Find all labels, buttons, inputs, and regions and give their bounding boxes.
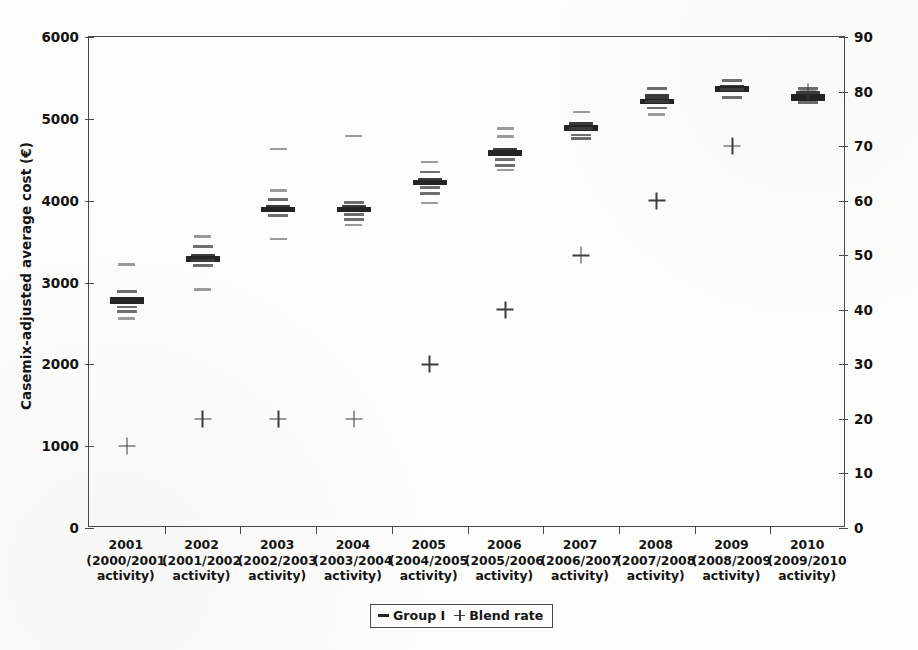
y-axis-title-left: Casemix-adjusted average cost (€) [18, 150, 34, 410]
y-tick-left [85, 364, 94, 365]
y-tick-right [839, 146, 848, 147]
y-tick-label-right: 30 [854, 356, 873, 372]
y-tick-label-right: 70 [854, 138, 873, 154]
group-i-dash-marker [345, 135, 362, 138]
y-tick-left [85, 528, 94, 529]
x-tick [770, 526, 771, 534]
blend-rate-plus-marker [118, 438, 135, 455]
group-i-dash-marker [720, 88, 744, 91]
x-tick [695, 526, 696, 534]
y-tick-label-right: 20 [854, 411, 873, 427]
blend-rate-plus-marker [800, 83, 817, 100]
x-tick [543, 526, 544, 534]
group-i-dash-marker [110, 299, 144, 304]
group-i-dash-marker [569, 127, 593, 130]
group-i-dash-marker [497, 127, 514, 130]
legend-label-group-i: Group I [393, 608, 445, 623]
group-i-dash-marker [571, 137, 591, 140]
y-tick-label-left: 6000 [41, 29, 79, 45]
group-i-dash-marker [798, 101, 818, 104]
group-i-dash-marker [497, 169, 514, 172]
legend-label-blend-rate: Blend rate [469, 608, 543, 623]
y-tick-right [839, 255, 848, 256]
y-tick-right [839, 528, 848, 529]
group-i-dash-marker [193, 245, 213, 248]
group-i-dash-marker [420, 192, 440, 195]
x-tick [165, 526, 166, 534]
group-i-dash-marker [421, 202, 438, 205]
x-tick [392, 526, 393, 534]
group-i-dash-marker [337, 207, 371, 212]
group-i-dash-marker [420, 171, 440, 174]
group-i-dash-marker [722, 79, 742, 82]
y-tick-left [85, 201, 94, 202]
y-tick-right [839, 419, 848, 420]
group-i-dash-marker [261, 207, 295, 212]
y-tick-label-left: 4000 [41, 193, 79, 209]
y-tick-label-right: 90 [854, 29, 873, 45]
plot-area: 6000500040003000200010000 90807060504030… [88, 36, 845, 527]
blend-rate-plus-marker [497, 301, 514, 318]
y-tick-right [839, 473, 848, 474]
chart-container: Casemix-adjusted average cost (€) Blend … [0, 0, 918, 650]
group-i-dash-marker [495, 158, 515, 161]
y-tick-label-left: 2000 [41, 356, 79, 372]
blend-rate-plus-marker [573, 247, 590, 264]
group-i-dash-marker [345, 224, 362, 227]
group-i-dash-marker [497, 135, 514, 138]
x-tick [240, 526, 241, 534]
group-i-dash-marker [648, 113, 665, 116]
group-i-dash-marker [268, 198, 288, 201]
x-tick [468, 526, 469, 534]
group-i-dash-marker [117, 306, 137, 309]
legend-item-blend-rate: Blend rate [454, 608, 543, 623]
group-i-dash-marker [495, 164, 515, 167]
group-i-dash-marker [488, 151, 522, 156]
blend-rate-plus-marker [648, 192, 665, 209]
group-i-dash-marker [647, 87, 667, 90]
blend-rate-plus-marker [724, 138, 741, 155]
y-tick-left [85, 283, 94, 284]
x-tick [619, 526, 620, 534]
y-tick-label-left: 5000 [41, 111, 79, 127]
group-i-dash-marker [268, 214, 288, 217]
y-tick-left [85, 37, 94, 38]
group-i-dash-marker [118, 263, 135, 266]
group-i-dash-marker [647, 107, 667, 110]
group-i-dash-marker [270, 238, 287, 241]
y-tick-right [839, 310, 848, 311]
group-i-dash-marker [420, 186, 440, 189]
y-tick-right [839, 364, 848, 365]
group-i-dash-marker [573, 111, 590, 114]
x-category-label-2010: 2010(2009/2010activity) [760, 537, 854, 584]
blend-rate-plus-marker [421, 356, 438, 373]
y-tick-left [85, 446, 94, 447]
y-tick-right [839, 37, 848, 38]
group-i-dash-marker [194, 235, 211, 238]
group-i-dash-marker [645, 100, 669, 103]
group-i-dash-marker [117, 290, 137, 293]
y-tick-label-left: 1000 [41, 438, 79, 454]
blend-rate-plus-marker [194, 410, 211, 427]
y-tick-label-right: 60 [854, 193, 873, 209]
plus-marker-icon [454, 610, 465, 621]
y-tick-label-right: 50 [854, 247, 873, 263]
group-i-dash-marker [118, 317, 135, 320]
y-tick-left [85, 119, 94, 120]
dash-marker-icon [378, 614, 389, 617]
group-i-dash-marker [270, 189, 287, 192]
chart-legend: Group I Blend rate [370, 604, 553, 628]
group-i-dash-marker [191, 259, 215, 262]
x-tick [316, 526, 317, 534]
y-tick-label-right: 0 [854, 520, 863, 536]
group-i-dash-marker [270, 148, 287, 151]
y-tick-label-right: 80 [854, 84, 873, 100]
group-i-dash-marker [117, 310, 137, 313]
group-i-dash-marker [413, 180, 447, 185]
group-i-dash-marker [344, 213, 364, 216]
group-i-dash-marker [344, 201, 364, 204]
legend-item-group-i: Group I [378, 608, 445, 623]
y-tick-label-right: 40 [854, 302, 873, 318]
blend-rate-plus-marker [345, 410, 362, 427]
y-tick-right [839, 92, 848, 93]
